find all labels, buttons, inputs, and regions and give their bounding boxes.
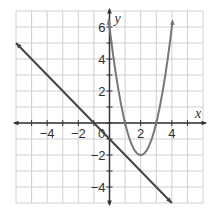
y-axis-label: y: [113, 11, 122, 26]
svg-text:−4: −4: [91, 180, 106, 195]
svg-text:−4: −4: [40, 126, 55, 141]
svg-text:−2: −2: [91, 148, 106, 163]
svg-text:2: 2: [98, 84, 105, 99]
svg-text:6: 6: [98, 20, 105, 35]
svg-text:2: 2: [137, 126, 144, 141]
svg-text:−2: −2: [71, 126, 86, 141]
x-axis-label: x: [194, 106, 202, 121]
graph: −4−2024−4−2246 x y: [0, 0, 212, 215]
svg-text:4: 4: [168, 126, 175, 141]
svg-text:4: 4: [98, 52, 105, 67]
